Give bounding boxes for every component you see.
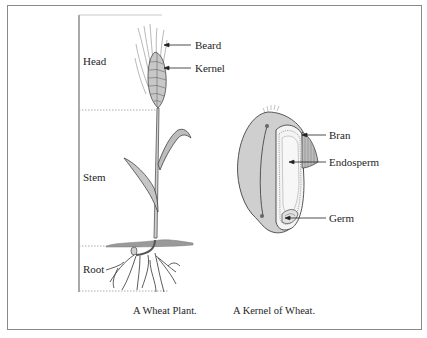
callout-germ: Germ — [329, 212, 354, 224]
seed-base — [131, 247, 137, 255]
callout-beard: Beard — [195, 39, 221, 51]
wheat-plant-illustration — [106, 24, 193, 292]
roots — [106, 253, 180, 292]
wheat-kernel-illustration — [238, 105, 326, 233]
caption-wheat-plant: A Wheat Plant. — [133, 305, 197, 317]
bran-flap — [302, 132, 318, 168]
endosperm — [282, 136, 299, 214]
section-label-root: Root — [83, 263, 104, 275]
callout-endosperm: Endosperm — [329, 156, 379, 168]
stem — [154, 108, 159, 238]
soil-line — [106, 240, 193, 247]
section-label-stem: Stem — [83, 171, 106, 183]
upper-leaf — [158, 129, 191, 170]
plant-callout-arrows — [164, 43, 191, 70]
caption-kernel-of-wheat: A Kernel of Wheat. — [233, 305, 315, 317]
lower-leaf — [124, 158, 158, 212]
callout-kernel: Kernel — [195, 62, 225, 74]
callout-bran: Bran — [329, 129, 350, 141]
section-label-head: Head — [83, 55, 106, 67]
